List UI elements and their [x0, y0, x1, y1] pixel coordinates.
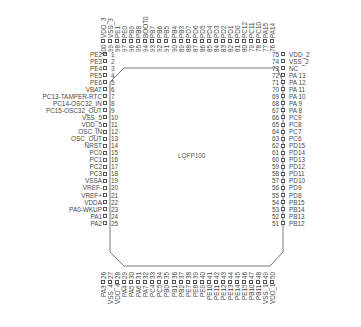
- pin-number-20: 20: [111, 184, 118, 191]
- pin-number-41: 41: [206, 272, 213, 279]
- pin-number-39: 39: [192, 272, 199, 279]
- pin-pad-48: [256, 280, 260, 284]
- pin-name-71: PA 12: [289, 79, 306, 86]
- pin-number-73: 73: [272, 65, 279, 72]
- pin-pad-85: [207, 39, 211, 43]
- pin-pad-4: [103, 73, 107, 77]
- pin-number-72: 72: [272, 72, 279, 79]
- pin-name-39: PE8: [192, 285, 199, 297]
- pin-pad-34: [157, 280, 161, 284]
- pin-number-89: 89: [178, 45, 185, 52]
- pin-name-27: VSS_4: [107, 284, 114, 304]
- pin-name-82: PD1: [227, 26, 234, 38]
- pin-name-2: PE3: [90, 58, 102, 65]
- pin-pad-82: [228, 39, 232, 43]
- pin-pad-53: [281, 207, 285, 211]
- pin-pad-54: [281, 200, 285, 204]
- pin-name-88: PD7: [185, 26, 192, 38]
- pin-number-81: 81: [234, 45, 241, 52]
- pin-number-55: 55: [272, 192, 279, 199]
- pin-pad-23: [103, 207, 107, 211]
- pin-number-80: 80: [241, 45, 248, 52]
- lqfp100-pinout-diagram: PE21PE32PE43PE54PE65VBAT6PC13-TAMPER-RTC…: [0, 0, 361, 327]
- pin-number-62: 62: [272, 142, 279, 149]
- pin-pad-15: [103, 151, 107, 155]
- pin-name-17: PC2: [90, 163, 102, 170]
- pin-number-40: 40: [199, 272, 206, 279]
- pin-pad-5: [103, 80, 107, 84]
- pin-number-25: 25: [111, 220, 118, 227]
- pin-number-83: 83: [220, 45, 227, 52]
- pin-pad-83: [221, 39, 225, 43]
- pin-pad-16: [103, 158, 107, 162]
- pin-pad-95: [136, 39, 140, 43]
- package-label: LQFP100: [178, 152, 205, 159]
- pin-number-56: 56: [272, 184, 279, 191]
- pin-pad-19: [103, 179, 107, 183]
- pin-number-65: 65: [272, 121, 279, 128]
- pin-number-2: 2: [111, 58, 115, 65]
- pin-pad-76: [270, 39, 274, 43]
- pin-name-25: PA2: [90, 220, 102, 227]
- pin-pad-86: [200, 39, 204, 43]
- pin-number-42: 42: [213, 272, 220, 279]
- pin-number-70: 70: [272, 86, 279, 93]
- pin-name-81: PD0: [234, 26, 241, 38]
- pin-number-68: 68: [272, 100, 279, 107]
- pin-number-53: 53: [272, 206, 279, 213]
- pin-name-55: PD8: [289, 192, 301, 199]
- pin-pad-78: [256, 39, 260, 43]
- pin-number-67: 67: [272, 107, 279, 114]
- pin-name-51: PB12: [289, 220, 305, 227]
- pin-pad-87: [193, 39, 197, 43]
- pin-pad-32: [143, 280, 147, 284]
- pin-number-45: 45: [234, 272, 241, 279]
- pin-pad-100: [101, 39, 105, 43]
- pin-pad-26: [101, 280, 105, 284]
- pin-name-19: VSSA: [85, 177, 102, 184]
- pin-pad-74: [281, 59, 285, 63]
- pin-name-91: PB5: [163, 26, 170, 38]
- pin-number-10: 10: [111, 114, 118, 121]
- pin-number-90: 90: [171, 45, 178, 52]
- pin-number-91: 91: [163, 45, 170, 52]
- pin-pad-39: [193, 280, 197, 284]
- pin-name-3: PE4: [90, 65, 102, 72]
- pin-pad-21: [103, 193, 107, 197]
- pin-name-26: PA3: [100, 285, 107, 297]
- pin-name-16: PC1: [90, 156, 102, 163]
- pin-number-7: 7: [111, 93, 115, 100]
- pin-name-24: PA1: [90, 213, 102, 220]
- pin-number-9: 9: [111, 107, 115, 114]
- pin-number-99: 99: [107, 45, 114, 52]
- pin-name-57: PD10: [289, 177, 305, 184]
- pin-number-100: 100: [100, 44, 107, 55]
- pin-number-50: 50: [269, 272, 276, 279]
- pin-pad-88: [186, 39, 190, 43]
- pin-name-46: PE15: [241, 285, 248, 301]
- pin-number-76: 76: [269, 45, 276, 52]
- pin-pad-60: [281, 158, 285, 162]
- pin-number-37: 37: [178, 272, 185, 279]
- pin-pad-90: [172, 39, 176, 43]
- pin-pad-6: [103, 87, 107, 91]
- pin-name-40: PE9: [199, 285, 206, 297]
- pin-number-23: 23: [111, 206, 118, 213]
- pin-number-17: 17: [111, 163, 118, 170]
- pin-name-21: VREF+: [81, 192, 102, 199]
- pin-name-50: VDD_1: [269, 283, 276, 304]
- pin-name-63: PC6: [289, 135, 301, 142]
- pin-number-13: 13: [111, 135, 118, 142]
- pin-pad-69: [281, 94, 285, 98]
- pin-pad-63: [281, 137, 285, 141]
- pin-pad-70: [281, 87, 285, 91]
- pin-pad-98: [115, 39, 119, 43]
- pin-number-3: 3: [111, 65, 115, 72]
- pin-pad-84: [214, 39, 218, 43]
- pin-name-45: PE14: [234, 285, 241, 301]
- pin-name-86: PD5: [199, 26, 206, 38]
- pin-number-79: 79: [248, 45, 255, 52]
- pin-number-60: 60: [272, 156, 279, 163]
- pin-pad-52: [281, 214, 285, 218]
- pin-number-69: 69: [272, 93, 279, 100]
